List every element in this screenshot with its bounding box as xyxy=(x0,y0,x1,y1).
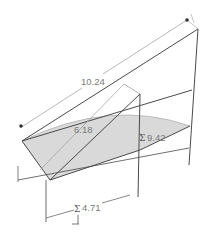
dimension-10-24[interactable]: 10.24 xyxy=(19,14,198,128)
inner-extension-line xyxy=(124,84,140,94)
dim-label-bottom[interactable]: 4.71 xyxy=(82,202,101,213)
dim-label-mid[interactable]: 6.18 xyxy=(74,124,93,135)
sigma-icon: Σ xyxy=(74,204,80,214)
sigma-icon: Σ xyxy=(139,133,145,143)
sketch-canvas[interactable]: 10.24 6.18 Σ 9.42 Σ 4.71 xyxy=(0,0,208,235)
endpoint-dot-icon xyxy=(185,18,189,22)
dim-label-top[interactable]: 10.24 xyxy=(81,76,105,87)
dimension-9-42[interactable]: Σ 9.42 xyxy=(139,132,166,143)
right-vertical-line xyxy=(189,29,198,165)
dim-label-right[interactable]: 9.42 xyxy=(147,132,166,143)
dimension-4-71[interactable]: Σ 4.71 xyxy=(46,195,130,224)
endpoint-dot-icon xyxy=(19,124,23,128)
